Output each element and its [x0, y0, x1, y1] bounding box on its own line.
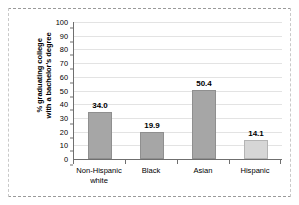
x-tick-mark [73, 160, 74, 164]
bar[interactable] [88, 112, 112, 159]
bar-slot: 50.4 [178, 22, 230, 159]
y-tick-label: 50 [60, 86, 68, 95]
frame-rule-left [8, 8, 9, 197]
y-tick-label: 90 [60, 31, 68, 40]
frame-rule-right [290, 8, 291, 197]
frame-rule-top [8, 8, 291, 9]
y-tick-label: 30 [60, 113, 68, 122]
bar-slot: 34.0 [74, 22, 126, 159]
bar-value-label: 50.4 [196, 79, 212, 88]
x-category-label-line: Asian [177, 166, 229, 176]
y-tick-label: 80 [60, 45, 68, 54]
bar-value-label: 19.9 [144, 121, 160, 130]
x-category-label-line: Non-Hispanic [73, 166, 125, 176]
y-tick-label: 70 [60, 59, 68, 68]
x-axis-tick-marks [73, 160, 281, 164]
bar-value-label: 14.1 [248, 129, 264, 138]
y-tick-label: 60 [60, 72, 68, 81]
y-tick-label: 10 [60, 141, 68, 150]
x-axis-category-labels: Non-HispanicwhiteBlackAsianHispanic [73, 166, 281, 185]
chart-figure: % graduating college with a bachelor's d… [0, 0, 299, 205]
x-tick-mark [280, 160, 281, 164]
bar[interactable] [244, 140, 268, 159]
y-tick-label: 40 [60, 100, 68, 109]
x-tick-mark [229, 160, 230, 164]
y-axis-title-line-1: % graduating college [35, 15, 44, 135]
bar[interactable] [192, 90, 216, 159]
bar-value-label: 34.0 [92, 101, 108, 110]
x-category-label-line: Hispanic [229, 166, 281, 176]
bar-series: 34.019.950.414.1 [74, 22, 282, 159]
bar-chart: % graduating college with a bachelor's d… [18, 16, 284, 191]
bar[interactable] [140, 132, 164, 159]
x-tick-mark [125, 160, 126, 164]
y-axis-tick-labels: 0102030405060708090100 [48, 22, 68, 159]
x-category-label: Non-Hispanicwhite [73, 166, 125, 185]
x-category-label-line: Black [125, 166, 177, 176]
plot-area: 34.019.950.414.1 [73, 22, 282, 160]
y-tick-label: 100 [56, 18, 68, 27]
x-category-label-line: white [73, 176, 125, 186]
x-category-label: Hispanic [229, 166, 281, 185]
frame-rule-bottom [8, 196, 291, 197]
y-tick-label: 20 [60, 127, 68, 136]
x-category-label: Asian [177, 166, 229, 185]
bar-slot: 19.9 [126, 22, 178, 159]
x-category-label: Black [125, 166, 177, 185]
bar-slot: 14.1 [230, 22, 282, 159]
y-tick-label: 0 [64, 155, 68, 164]
x-tick-mark [177, 160, 178, 164]
